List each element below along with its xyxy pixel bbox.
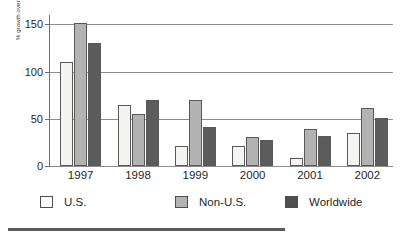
x-tick-label-2001: 2001 bbox=[280, 169, 340, 181]
legend-item-nonus[interactable]: Non-U.S. bbox=[175, 194, 246, 210]
bar-2002-nonus bbox=[361, 108, 374, 167]
plot-area: 050100150 199719981999200020012002 bbox=[49, 15, 393, 166]
x-tick-label-2000: 2000 bbox=[223, 169, 283, 181]
bar-group-2002 bbox=[347, 15, 388, 166]
y-axis-title: % growth over the previous year bbox=[13, 0, 24, 40]
bar-2002-us bbox=[347, 133, 360, 166]
x-tick-label-1997: 1997 bbox=[51, 169, 111, 181]
y-tick-mark bbox=[45, 166, 50, 167]
bar-group-1999 bbox=[175, 15, 216, 166]
bar-1998-nonus bbox=[132, 114, 145, 166]
x-axis-line bbox=[49, 166, 393, 167]
y-axis-line bbox=[49, 15, 50, 167]
bar-1998-us bbox=[118, 105, 131, 166]
y-tick-mark bbox=[45, 72, 50, 73]
bar-1999-worldwide bbox=[203, 127, 216, 166]
bottom-divider bbox=[8, 228, 285, 231]
bar-1997-nonus bbox=[74, 23, 87, 166]
bar-2000-worldwide bbox=[260, 140, 273, 166]
chart-legend: U.S.Non-U.S.Worldwide bbox=[40, 194, 370, 214]
legend-item-us[interactable]: U.S. bbox=[40, 194, 86, 210]
bar-2001-us bbox=[290, 158, 303, 166]
legend-label: Non-U.S. bbox=[199, 196, 246, 208]
bar-2001-nonus bbox=[304, 129, 317, 166]
bar-group-2000 bbox=[232, 15, 273, 166]
bar-2000-us bbox=[232, 146, 245, 166]
bar-1998-worldwide bbox=[146, 100, 159, 166]
y-tick-label: 100 bbox=[25, 66, 43, 78]
y-tick-mark bbox=[45, 24, 50, 25]
legend-label: Worldwide bbox=[309, 196, 362, 208]
bar-group-2001 bbox=[290, 15, 331, 166]
bar-1997-us bbox=[60, 62, 73, 166]
y-tick-label: 50 bbox=[31, 113, 43, 125]
bar-group-1998 bbox=[118, 15, 159, 166]
y-tick-label: 150 bbox=[25, 18, 43, 30]
legend-swatch-icon bbox=[175, 196, 188, 208]
bar-2002-worldwide bbox=[375, 118, 388, 166]
x-tick-label-2002: 2002 bbox=[337, 169, 397, 181]
bar-group-1997 bbox=[60, 15, 101, 166]
bar-2000-nonus bbox=[246, 137, 259, 166]
x-tick-label-1998: 1998 bbox=[108, 169, 168, 181]
y-tick-mark bbox=[45, 119, 50, 120]
y-tick-label: 0 bbox=[37, 160, 43, 172]
x-tick-label-1999: 1999 bbox=[165, 169, 225, 181]
bar-chart-figure: % growth over the previous year 05010015… bbox=[0, 0, 403, 241]
legend-swatch-icon bbox=[285, 196, 298, 208]
legend-item-worldwide[interactable]: Worldwide bbox=[285, 194, 362, 210]
bar-1999-nonus bbox=[189, 100, 202, 166]
legend-label: U.S. bbox=[64, 196, 86, 208]
legend-swatch-icon bbox=[40, 196, 53, 208]
bar-2001-worldwide bbox=[318, 136, 331, 166]
bar-1999-us bbox=[175, 146, 188, 166]
bar-1997-worldwide bbox=[88, 43, 101, 166]
